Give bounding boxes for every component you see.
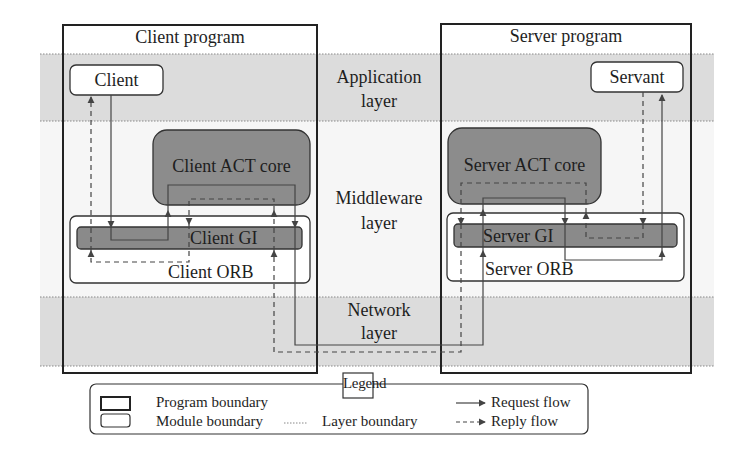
servant-label: Servant — [591, 68, 683, 86]
application-layer-label: Application layer — [317, 65, 441, 113]
middleware-layer-label: Middleware layer — [317, 186, 441, 236]
client-gi-label: Client GI — [190, 229, 258, 247]
program-boundary-swatch — [101, 397, 130, 410]
legend-program-boundary-label: Program boundary — [156, 395, 268, 410]
middleware-layer-line2: layer — [317, 211, 441, 236]
server-act-core-label: Server ACT core — [448, 156, 601, 174]
network-layer-label: Network layer — [317, 299, 441, 345]
server-gi-label: Server GI — [483, 227, 553, 245]
application-layer-line2: layer — [317, 89, 441, 113]
middleware-layer-line1: Middleware — [317, 186, 441, 211]
network-layer-line1: Network — [317, 299, 441, 322]
legend-request-flow-label: Request flow — [491, 395, 571, 410]
client-label: Client — [70, 71, 163, 89]
network-layer-line2: layer — [317, 322, 441, 345]
application-layer-line1: Application — [317, 65, 441, 89]
server-program-title: Server program — [441, 27, 691, 45]
server-orb-label: Server ORB — [485, 260, 574, 278]
client-act-core-label: Client ACT core — [153, 157, 310, 175]
legend-module-boundary-label: Module boundary — [156, 414, 263, 429]
legend-reply-flow-label: Reply flow — [491, 414, 558, 429]
legend-title: Legend — [343, 376, 373, 391]
client-program-title: Client program — [63, 28, 317, 46]
client-orb-label: Client ORB — [168, 263, 254, 281]
legend-layer-boundary-label: Layer boundary — [322, 414, 417, 429]
module-boundary-swatch — [101, 414, 130, 427]
